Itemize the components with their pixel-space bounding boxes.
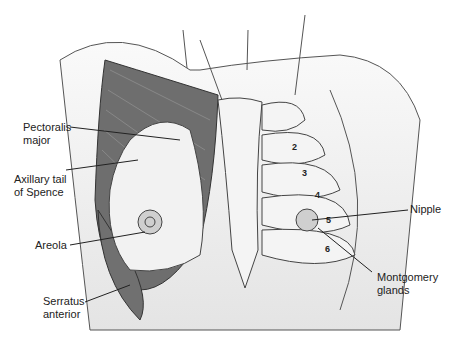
label-line: of Spence (14, 186, 67, 199)
label-serratus-anterior: Serratus anterior (43, 295, 85, 321)
label-line: glands (377, 284, 438, 297)
label-line: anterior (43, 308, 85, 321)
breast-anatomy-figure: Pectoralis major Axillary tail of Spence… (0, 0, 456, 338)
rib-number: 5 (326, 215, 331, 225)
label-pectoralis-major: Pectoralis major (23, 121, 71, 147)
label-line: Pectoralis (23, 121, 71, 134)
rib-number: 4 (315, 190, 320, 200)
label-areola: Areola (35, 239, 67, 252)
label-line: major (23, 134, 71, 147)
rib-number: 2 (292, 142, 297, 152)
label-line: Serratus (43, 295, 85, 308)
rib-number: 3 (302, 168, 307, 178)
label-nipple: Nipple (410, 203, 441, 216)
label-axillary-tail: Axillary tail of Spence (14, 173, 67, 199)
rib-number: 6 (325, 244, 330, 254)
label-line: Montgomery (377, 271, 438, 284)
label-line: Axillary tail (14, 173, 67, 186)
label-montgomery-glands: Montgomery glands (377, 271, 438, 297)
